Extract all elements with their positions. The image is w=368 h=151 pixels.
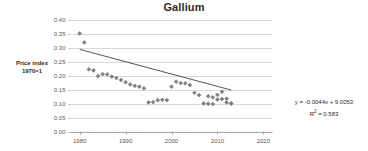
data-point-marker	[156, 98, 160, 102]
y-tick-labels-group: 0.000.050.100.150.200.250.300.350.40	[54, 17, 71, 135]
data-point-marker	[174, 80, 178, 84]
data-point-marker	[128, 83, 132, 87]
x-tick-label: 1980	[73, 138, 87, 144]
trendline-equation-annotation: y = -0.0044x + 9.0053 R2 = 0.583	[283, 98, 365, 119]
r-value: = 0.583	[318, 111, 338, 117]
x-tick-labels-group: 19801990200020102020	[73, 132, 271, 144]
trendline-equation: y = -0.0044x + 9.0053	[283, 98, 365, 107]
y-tick-label: 0.10	[54, 101, 66, 107]
data-point-marker	[193, 91, 197, 95]
x-tick-label: 2020	[257, 138, 271, 144]
y-tick-label: 0.20	[54, 73, 66, 79]
data-point-marker	[96, 74, 100, 78]
x-tick-label: 2010	[211, 138, 225, 144]
chart-container: Gallium Price index 1970=1 0.000.050.100…	[0, 0, 368, 151]
data-point-marker	[101, 72, 105, 76]
r-exponent: 2	[314, 109, 317, 114]
data-point-marker	[216, 93, 220, 97]
data-point-marker	[220, 97, 224, 101]
data-point-marker	[87, 67, 91, 71]
data-point-marker	[206, 94, 210, 98]
trendline	[80, 49, 232, 90]
y-tick-label: 0.40	[54, 17, 66, 23]
trendline-r-squared: R2 = 0.583	[283, 107, 365, 119]
x-tick-label: 1990	[119, 138, 133, 144]
data-point-marker	[206, 102, 210, 106]
gridlines-group	[71, 21, 273, 133]
data-point-marker	[124, 80, 128, 84]
y-tick-label: 0.00	[54, 129, 66, 135]
x-tick-label: 2000	[165, 138, 179, 144]
y-tick-label: 0.35	[54, 31, 66, 37]
data-point-marker	[170, 85, 174, 89]
data-point-marker	[92, 69, 96, 73]
data-point-marker	[119, 78, 123, 82]
data-points-group	[78, 32, 233, 106]
data-point-marker	[142, 86, 146, 90]
data-point-marker	[105, 72, 109, 76]
data-point-marker	[151, 100, 155, 104]
data-point-marker	[183, 81, 187, 85]
y-tick-label: 0.25	[54, 59, 66, 65]
data-point-marker	[211, 95, 215, 99]
plot-area: 0.000.050.100.150.200.250.300.350.40 198…	[0, 0, 368, 151]
data-point-marker	[133, 84, 137, 88]
data-point-marker	[137, 85, 141, 89]
data-point-marker	[211, 102, 215, 106]
data-point-marker	[165, 98, 169, 102]
y-tick-label: 0.30	[54, 45, 66, 51]
data-point-marker	[160, 98, 164, 102]
data-point-marker	[110, 75, 114, 79]
data-point-marker	[216, 98, 220, 102]
data-point-marker	[179, 81, 183, 85]
trendline-group	[80, 49, 232, 90]
data-point-marker	[147, 100, 151, 104]
data-point-marker	[197, 93, 201, 97]
data-point-marker	[82, 41, 86, 45]
data-point-marker	[225, 100, 229, 104]
y-tick-label: 0.05	[54, 115, 66, 121]
data-point-marker	[188, 83, 192, 87]
y-tick-label: 0.15	[54, 87, 66, 93]
